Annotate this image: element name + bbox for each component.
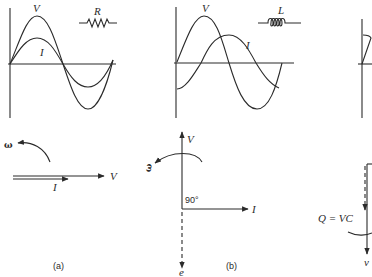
phasor-diagram-figure: V I R ω V I (a) V I L [0, 0, 372, 277]
panel-c: Q = VC v [318, 19, 372, 268]
panel-b-caption: (b) [226, 261, 237, 271]
panel-b: V I L V ω I 90° e (b) [143, 2, 301, 277]
panel-c-rotation-arc [348, 232, 372, 235]
inductor-icon [258, 19, 301, 27]
panel-b-emf-label: e [179, 266, 184, 277]
panel-b-omega-label: ω [143, 162, 154, 173]
panel-c-voltage-label: v [364, 256, 369, 268]
panel-b-current-label: I [245, 39, 251, 51]
resistor-label: R [93, 5, 101, 17]
panel-a: V I R ω V I (a) [4, 2, 118, 271]
inductor-symbol: L [258, 4, 301, 26]
panel-b-voltage-label: V [202, 2, 210, 14]
panel-a-voltage-label: V [33, 2, 41, 14]
panel-a-phasor: ω V I [4, 140, 118, 193]
panel-b-phasor-voltage-label: V [187, 133, 195, 145]
panel-a-phasor-voltage-label: V [110, 170, 118, 182]
panel-a-omega-rotation-arrow [18, 143, 50, 162]
panel-b-waveform-plot: V I [174, 2, 294, 118]
panel-c-phasor: Q = VC v [318, 164, 372, 268]
panel-c-curve-fragment [362, 35, 371, 64]
panel-b-current-curve [177, 35, 279, 89]
panel-a-waveform-plot: V I [8, 2, 116, 118]
resistor-symbol: R [79, 5, 117, 27]
panel-a-current-curve [10, 38, 113, 87]
panel-a-caption: (a) [53, 261, 64, 271]
panel-b-angle-label: 90° [185, 195, 199, 205]
panel-b-phasor-current-label: I [251, 203, 257, 215]
panel-a-current-label: I [39, 46, 45, 58]
panel-c-waveform-plot [358, 19, 372, 118]
panel-c-charge-label: Q = VC [318, 212, 354, 224]
panel-a-omega-label: ω [4, 140, 13, 150]
resistor-icon [79, 19, 117, 27]
inductor-label: L [277, 4, 284, 16]
panel-a-phasor-current-label: I [52, 181, 58, 193]
panel-b-phasor: V ω I 90° e [143, 132, 257, 277]
panel-a-voltage-curve [10, 16, 113, 109]
panel-b-omega-rotation-arrow [155, 154, 202, 164]
